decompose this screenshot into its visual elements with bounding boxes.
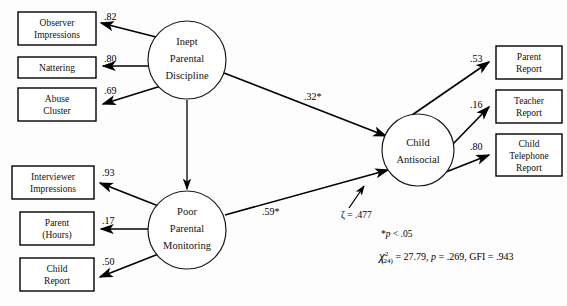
- coefficient-child-telephone-report: .80: [470, 141, 483, 152]
- significance-p-symbol: p: [386, 229, 391, 239]
- latent-label-line1: Inept: [176, 36, 198, 47]
- indicator-label-line2: Impressions: [30, 184, 76, 194]
- coefficient-parent-hours: .17: [102, 215, 115, 226]
- structural-path-monitoring-to-antisocial: [225, 170, 388, 215]
- indicator-label-line3: Report: [516, 163, 542, 173]
- indicator-parent-report[interactable]: Parent Report: [496, 46, 562, 79]
- indicator-label-line1: Interviewer: [31, 172, 76, 182]
- indicator-label-line2: Report: [516, 64, 542, 74]
- coefficient-nattering: .80: [104, 53, 117, 64]
- indicator-label-line1: Parent: [517, 52, 542, 62]
- coefficient-teacher-report: .16: [470, 99, 483, 110]
- indicator-label-line1: Teacher: [514, 96, 545, 106]
- loading-arrow-teacher-report: [452, 107, 489, 145]
- p-value: = .269,: [439, 251, 467, 262]
- indicator-child-telephone-report[interactable]: Child Telephone Report: [496, 134, 562, 176]
- latent-poor-parental-monitoring[interactable]: Poor Parental Monitoring: [148, 191, 226, 269]
- indicator-label-line2: Report: [44, 276, 70, 286]
- indicator-label-line2: Cluster: [43, 106, 71, 116]
- loading-arrow-interviewer-impressions: [100, 183, 161, 207]
- latent-label-line2: Antisocial: [396, 154, 439, 165]
- gfi-label: GFI: [469, 251, 485, 262]
- indicator-teacher-report[interactable]: Teacher Report: [496, 90, 562, 123]
- p-symbol: p: [431, 251, 436, 262]
- indicator-label-line2: Report: [516, 108, 542, 118]
- chi-symbol: χ: [379, 248, 385, 263]
- latent-label-line3: Monitoring: [163, 240, 212, 251]
- coefficient-parent-report: .53: [470, 53, 483, 64]
- latent-inept-parental-discipline[interactable]: Inept Parental Discipline: [148, 21, 226, 99]
- latent-child-antisocial[interactable]: Child Antisocial: [382, 114, 454, 186]
- gfi-value: = .943: [488, 251, 514, 262]
- fit-statistics: χ2(24) = 27.79, p = .269, GFI = .943: [379, 248, 513, 265]
- coefficient-inept-to-antisocial: .32*: [304, 91, 322, 102]
- coefficient-child-report: .50: [102, 256, 115, 267]
- indicator-label-line1: Abuse: [45, 94, 69, 104]
- indicator-label-line1: Child: [518, 139, 539, 149]
- latent-label-line3: Discipline: [165, 70, 208, 81]
- latent-label-line1: Child: [406, 137, 430, 148]
- indicator-abuse-cluster[interactable]: Abuse Cluster: [18, 88, 96, 121]
- indicator-observer-impressions[interactable]: Observer Impressions: [18, 12, 96, 45]
- indicator-label-line2: Telephone: [509, 151, 548, 161]
- latent-label-line1: Poor: [177, 206, 197, 217]
- indicator-interviewer-impressions[interactable]: Interviewer Impressions: [12, 166, 94, 199]
- indicator-child-report[interactable]: Child Report: [20, 258, 94, 291]
- coefficient-abuse-cluster: .69: [104, 85, 117, 96]
- disturbance-arrow-antisocial: [349, 186, 364, 208]
- indicator-label-line1: Child: [46, 264, 67, 274]
- latent-label-line2: Parental: [170, 223, 204, 234]
- indicator-label-line1: Nattering: [39, 63, 75, 73]
- disturbance-note: ζ = .477: [341, 210, 372, 220]
- significance-threshold: < .05: [393, 229, 413, 239]
- coefficient-monitoring-to-antisocial: .59*: [262, 206, 280, 217]
- indicator-label-line1: Parent: [45, 218, 70, 228]
- structural-path-inept-to-antisocial: [224, 73, 386, 136]
- coefficient-observer-impressions: .82: [104, 11, 117, 22]
- loading-arrow-observer-impressions: [101, 23, 160, 38]
- chi-value: = 27.79,: [395, 251, 428, 262]
- indicator-parent-hours[interactable]: Parent (Hours): [20, 212, 94, 245]
- latent-label-line2: Parental: [170, 53, 204, 64]
- indicator-label-line1: Observer: [40, 18, 76, 28]
- figure-canvas: Observer Impressions Nattering Abuse Clu…: [0, 0, 567, 306]
- indicator-label-line2: Impressions: [34, 30, 80, 40]
- coefficient-interviewer-impressions: .93: [102, 167, 115, 178]
- indicator-nattering[interactable]: Nattering: [18, 57, 96, 78]
- significance-note: *p < .05: [381, 229, 412, 239]
- indicator-label-line2: (Hours): [42, 230, 72, 241]
